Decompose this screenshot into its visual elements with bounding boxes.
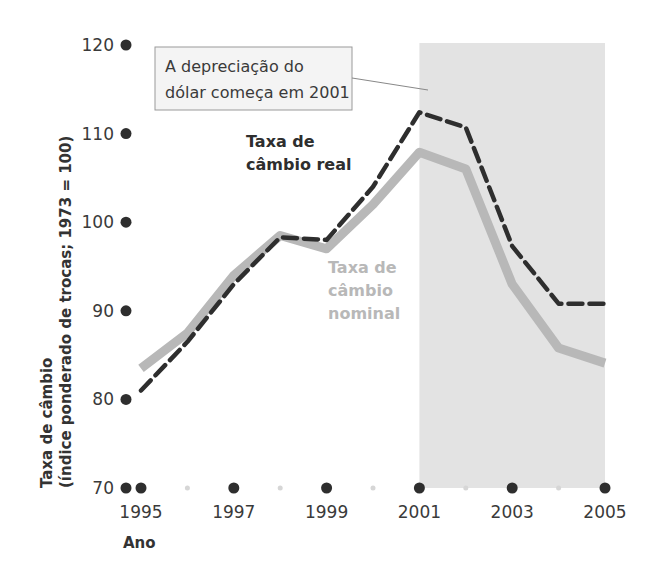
annotation-line-1: A depreciação do <box>165 57 304 76</box>
x-axis-title: Ano <box>123 534 156 552</box>
y-tick-label: 110 <box>82 124 114 144</box>
x-minor-tick-dot <box>278 486 283 491</box>
y-tick-dot <box>121 305 132 316</box>
y-tick-label: 120 <box>82 35 114 55</box>
y-axis: 708090100110120 <box>82 35 132 498</box>
real-label-line-2: câmbio real <box>246 155 351 174</box>
x-tick-dot <box>600 483 611 494</box>
nominal-label-line-1: Taxa de <box>328 258 397 277</box>
nominal-label-line-2: câmbio <box>328 281 393 300</box>
y-axis-title: Taxa de câmbio (índice ponderado de troc… <box>38 136 75 488</box>
chart-canvas: 708090100110120 199519971999200120032005… <box>0 0 661 574</box>
x-tick-label: 1995 <box>119 502 162 522</box>
nominal-label-line-3: nominal <box>328 304 400 323</box>
x-axis: 199519971999200120032005 <box>119 483 626 523</box>
x-tick-dot <box>507 483 518 494</box>
x-tick-dot <box>321 483 332 494</box>
nominal-series-label: Taxa de câmbio nominal <box>328 258 400 323</box>
y-tick-label: 70 <box>92 478 114 498</box>
x-tick-label: 2003 <box>491 502 534 522</box>
x-tick-label: 2005 <box>583 502 626 522</box>
y-tick-dot <box>121 40 132 51</box>
y-tick-label: 90 <box>92 301 114 321</box>
annotation-callout: A depreciação do dólar começa em 2001 <box>155 47 428 110</box>
x-minor-tick-dot <box>556 486 561 491</box>
y-tick-dot <box>121 128 132 139</box>
y-tick-label: 80 <box>92 389 114 409</box>
x-tick-dot <box>228 483 239 494</box>
y-tick-dot <box>121 394 132 405</box>
x-minor-tick-dot <box>371 486 376 491</box>
y-tick-dot <box>121 217 132 228</box>
depreciation-shaded-region <box>419 43 605 488</box>
y-tick-label: 100 <box>82 212 114 232</box>
annotation-line-2: dólar começa em 2001 <box>165 83 350 102</box>
y-tick-dot <box>121 483 132 494</box>
real-series-label: Taxa de câmbio real <box>246 132 351 174</box>
y-axis-title-line-1: Taxa de câmbio <box>38 358 56 488</box>
x-tick-label: 1997 <box>212 502 255 522</box>
exchange-rate-chart: 708090100110120 199519971999200120032005… <box>0 0 661 574</box>
real-label-line-1: Taxa de <box>246 132 315 151</box>
x-minor-tick-dot <box>185 486 190 491</box>
x-tick-dot <box>136 483 147 494</box>
annotation-leader-line <box>352 78 428 90</box>
x-tick-label: 1999 <box>305 502 348 522</box>
y-axis-title-line-2: (índice ponderado de trocas; 1973 = 100) <box>57 136 75 488</box>
x-minor-tick-dot <box>463 486 468 491</box>
x-tick-dot <box>414 483 425 494</box>
x-tick-label: 2001 <box>398 502 441 522</box>
